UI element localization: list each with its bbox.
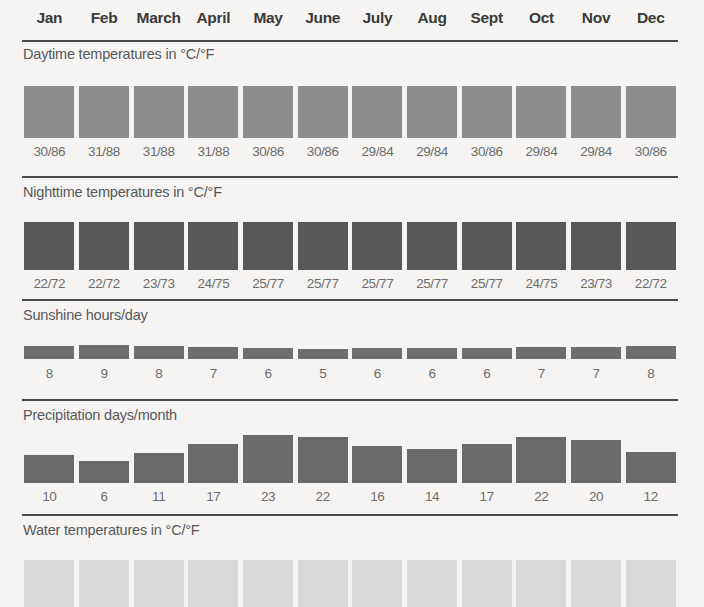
value-sunshine-nov: 7	[569, 366, 624, 382]
bar-daytime-aug	[407, 86, 457, 138]
bar-sunshine-oct	[516, 347, 566, 359]
bar-slot	[459, 222, 514, 270]
bar-row-daytime	[22, 86, 678, 138]
bar-slot	[131, 346, 186, 359]
value-sunshine-oct: 7	[514, 366, 569, 382]
bar-precipitation-june	[298, 437, 348, 484]
section-nighttime-temperatures: Nighttime temperatures in °C/°F 22/7222/…	[0, 184, 704, 299]
value-sunshine-jan: 8	[22, 366, 77, 382]
value-nighttime-oct: 24/75	[514, 276, 569, 292]
bar-slot	[350, 222, 405, 270]
bar-nighttime-aug	[407, 222, 457, 270]
month-header-oct: Oct	[514, 6, 569, 34]
value-precipitation-sept: 17	[459, 489, 514, 505]
bar-slot	[405, 449, 460, 483]
bar-nighttime-jan	[24, 222, 74, 270]
bar-daytime-july	[352, 86, 402, 138]
bar-daytime-march	[134, 86, 184, 138]
bar-slot	[569, 222, 624, 270]
value-nighttime-feb: 22/72	[77, 276, 132, 292]
bar-sunshine-feb	[79, 345, 129, 359]
bar-precipitation-march	[134, 453, 184, 483]
bar-daytime-sept	[462, 86, 512, 138]
bar-slot	[623, 222, 678, 270]
value-nighttime-sept: 25/77	[459, 276, 514, 292]
bar-water-march	[134, 560, 184, 607]
climate-table: JanFebMarchAprilMayJuneJulyAugSeptOctNov…	[0, 0, 704, 607]
value-nighttime-april: 24/75	[186, 276, 241, 292]
bar-precipitation-sept	[462, 444, 512, 483]
month-header-nov: Nov	[569, 6, 624, 34]
value-row-precipitation: 10611172322161417222012	[22, 489, 678, 505]
bar-sunshine-july	[352, 348, 402, 359]
section-water-temperatures: Water temperatures in °C/°F	[0, 522, 704, 607]
bar-row-precipitation	[22, 435, 678, 483]
month-header-may: May	[241, 6, 296, 34]
value-daytime-july: 29/84	[350, 144, 405, 160]
section-label-precipitation: Precipitation days/month	[23, 407, 177, 423]
bar-sunshine-nov	[571, 347, 621, 359]
bar-slot	[22, 455, 77, 483]
bar-water-sept	[462, 560, 512, 607]
bar-slot	[569, 560, 624, 607]
section-daytime-temperatures: Daytime temperatures in °C/°F 30/8631/88…	[0, 46, 704, 166]
bar-slot	[514, 560, 569, 607]
value-precipitation-july: 16	[350, 489, 405, 505]
bar-slot	[295, 86, 350, 138]
value-nighttime-jan: 22/72	[22, 276, 77, 292]
value-daytime-feb: 31/88	[77, 144, 132, 160]
bar-slot	[514, 347, 569, 359]
value-precipitation-may: 23	[241, 489, 296, 505]
bar-slot	[77, 86, 132, 138]
bar-slot	[569, 440, 624, 483]
bar-slot	[241, 435, 296, 483]
bar-row-sunshine	[22, 345, 678, 359]
month-header-march: March	[131, 6, 186, 34]
bar-nighttime-nov	[571, 222, 621, 270]
bar-slot	[350, 86, 405, 138]
bar-water-may	[243, 560, 293, 607]
value-nighttime-july: 25/77	[350, 276, 405, 292]
bar-slot	[514, 222, 569, 270]
bar-precipitation-feb	[79, 461, 129, 483]
bar-slot	[459, 348, 514, 359]
bar-precipitation-jan	[24, 455, 74, 483]
section-sunshine-hours: Sunshine hours/day 898765666778	[0, 307, 704, 397]
value-sunshine-april: 7	[186, 366, 241, 382]
value-precipitation-march: 11	[131, 489, 186, 505]
bar-slot	[241, 86, 296, 138]
bar-slot	[514, 437, 569, 484]
bar-slot	[77, 560, 132, 607]
bar-daytime-jan	[24, 86, 74, 138]
value-daytime-may: 30/86	[241, 144, 296, 160]
value-sunshine-feb: 9	[77, 366, 132, 382]
bar-slot	[350, 348, 405, 359]
bar-slot	[22, 560, 77, 607]
bar-water-oct	[516, 560, 566, 607]
bar-slot	[459, 444, 514, 483]
value-row-daytime: 30/8631/8831/8831/8830/8630/8629/8429/84…	[22, 144, 678, 160]
bar-water-dec	[626, 560, 676, 607]
value-sunshine-march: 8	[131, 366, 186, 382]
rule-below-daytime	[22, 176, 678, 178]
bar-slot	[350, 560, 405, 607]
bar-daytime-april	[188, 86, 238, 138]
value-row-nighttime: 22/7222/7223/7324/7525/7725/7725/7725/77…	[22, 276, 678, 292]
bar-slot	[405, 86, 460, 138]
bar-nighttime-feb	[79, 222, 129, 270]
month-header-sept: Sept	[459, 6, 514, 34]
bar-slot	[569, 86, 624, 138]
bar-precipitation-july	[352, 446, 402, 483]
value-daytime-june: 30/86	[295, 144, 350, 160]
bar-slot	[131, 86, 186, 138]
bar-daytime-dec	[626, 86, 676, 138]
bar-nighttime-july	[352, 222, 402, 270]
bar-slot	[241, 560, 296, 607]
value-nighttime-march: 23/73	[131, 276, 186, 292]
bar-daytime-may	[243, 86, 293, 138]
bar-slot	[350, 446, 405, 483]
bar-sunshine-april	[188, 347, 238, 359]
value-precipitation-feb: 6	[77, 489, 132, 505]
value-sunshine-may: 6	[241, 366, 296, 382]
value-sunshine-sept: 6	[459, 366, 514, 382]
